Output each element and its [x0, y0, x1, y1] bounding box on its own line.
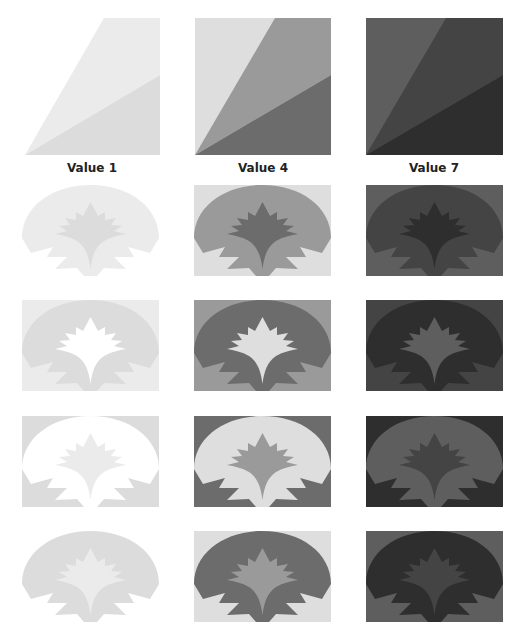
value-swatch-4-graphic [195, 18, 331, 155]
flower-tile-graphic [194, 300, 331, 391]
flower-tile-row-3-value-4 [194, 416, 331, 507]
flower-tile-graphic [366, 531, 503, 622]
flower-tile-graphic [22, 416, 159, 507]
flower-tile-row-1-value-4 [194, 185, 331, 276]
value-label-7: Value 7 [364, 161, 504, 175]
flower-tile-row-2-value-4 [194, 300, 331, 391]
flower-tile-row-4-value-1 [22, 531, 159, 622]
flower-tile-row-4-value-4 [194, 531, 331, 622]
flower-tile-row-2-value-7 [366, 300, 503, 391]
flower-tile-graphic [194, 531, 331, 622]
flower-tile-graphic [366, 185, 503, 276]
flower-tile-row-4-value-7 [366, 531, 503, 622]
value-swatch-7-graphic [366, 18, 503, 155]
value-label-1: Value 1 [22, 161, 162, 175]
flower-tile-graphic [194, 416, 331, 507]
flower-tile-row-3-value-7 [366, 416, 503, 507]
flower-tile-graphic [194, 185, 331, 276]
flower-tile-row-1-value-7 [366, 185, 503, 276]
flower-tile-graphic [22, 531, 159, 622]
flower-tile-row-2-value-1 [22, 300, 159, 391]
value-label-4: Value 4 [193, 161, 333, 175]
flower-tile-graphic [366, 416, 503, 507]
flower-tile-graphic [22, 185, 159, 276]
value-swatch-4 [195, 18, 331, 155]
flower-tile-row-1-value-1 [22, 185, 159, 276]
value-swatch-1 [25, 18, 160, 155]
flower-tile-graphic [366, 300, 503, 391]
value-swatch-7 [366, 18, 503, 155]
flower-tile-row-3-value-1 [22, 416, 159, 507]
flower-tile-graphic [22, 300, 159, 391]
value-swatch-1-graphic [25, 18, 160, 155]
